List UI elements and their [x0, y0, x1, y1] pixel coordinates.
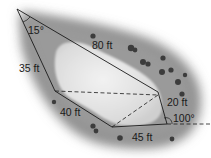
side-left-lower-label: 40 ft [60, 106, 81, 118]
angle-top-label: 15° [28, 24, 44, 36]
side-top-label: 80 ft [92, 39, 113, 51]
side-left-upper-label: 35 ft [19, 62, 40, 74]
side-bottom-label: 45 ft [132, 131, 153, 143]
angle-bottom-right-label: 100° [173, 112, 195, 124]
side-right-label: 20 ft [167, 96, 188, 108]
land-plot-diagram: 15° 80 ft 35 ft 40 ft 20 ft 100° 45 ft [0, 0, 211, 158]
